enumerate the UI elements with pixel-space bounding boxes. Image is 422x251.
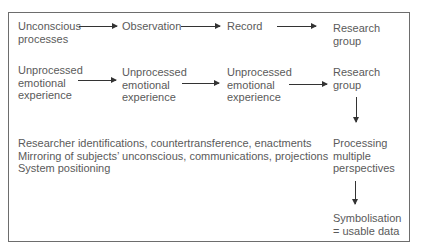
arrow-right-icon [182, 83, 219, 84]
label: Research [333, 66, 380, 79]
label: emotional [18, 77, 83, 90]
label: Symbolisation [333, 212, 401, 225]
node-processing: Processing multiple perspectives [333, 137, 395, 175]
label: processes [18, 33, 81, 46]
arrow-right-icon [289, 84, 327, 85]
label: experience [18, 89, 83, 102]
node-research-group-1: Research group [333, 22, 380, 47]
label: emotional [227, 79, 292, 92]
node-unconscious-processes: Unconscious processes [18, 20, 81, 45]
label: Processing [333, 137, 395, 150]
label: experience [122, 91, 187, 104]
note-line: Mirroring of subjects’ unconscious, comm… [18, 150, 328, 163]
label: Unprocessed [18, 64, 83, 77]
node-observation: Observation [122, 20, 181, 33]
note-line: System positioning [18, 162, 328, 175]
arrow-right-icon [78, 80, 116, 81]
label: group [333, 79, 380, 92]
label: Unconscious [18, 20, 81, 33]
label: emotional [122, 79, 187, 92]
label: perspectives [333, 162, 395, 175]
arrow-right-icon [181, 26, 220, 27]
label: multiple [333, 150, 395, 163]
label: experience [227, 91, 292, 104]
node-unprocessed-2: Unprocessed emotional experience [122, 66, 187, 104]
label: Research [333, 22, 380, 35]
node-unprocessed-1: Unprocessed emotional experience [18, 64, 83, 102]
arrow-down-icon [355, 181, 356, 204]
node-record: Record [227, 20, 262, 33]
label: group [333, 35, 380, 48]
label: Unprocessed [122, 66, 187, 79]
label: Unprocessed [227, 66, 292, 79]
node-symbolisation: Symbolisation = usable data [333, 212, 401, 237]
arrow-right-icon [277, 26, 316, 27]
label: = usable data [333, 225, 401, 238]
arrow-right-icon [79, 26, 117, 27]
arrow-down-icon [356, 97, 357, 122]
notes: Researcher identifications, countertrans… [18, 137, 328, 175]
node-unprocessed-3: Unprocessed emotional experience [227, 66, 292, 104]
node-research-group-2: Research group [333, 66, 380, 91]
note-line: Researcher identifications, countertrans… [18, 137, 328, 150]
